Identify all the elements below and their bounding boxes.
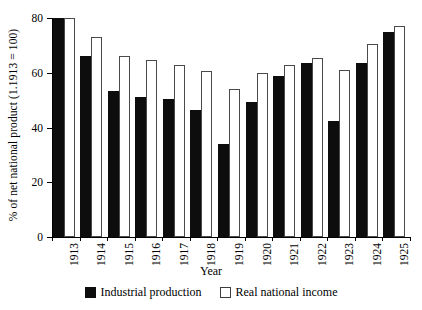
legend-item-label: Industrial production: [101, 285, 202, 300]
x-axis-tick-label: 1920: [261, 243, 273, 266]
x-axis-tick: [107, 237, 108, 241]
x-axis-tick-label: 1924: [371, 243, 383, 266]
bar-1921-real-national-income: [284, 65, 295, 237]
x-axis-tick: [410, 237, 411, 241]
y-axis-tick: 60: [47, 73, 52, 74]
bar-1915-real-national-income: [119, 56, 130, 237]
x-axis-tick: [272, 237, 273, 241]
bar-1920-real-national-income: [257, 73, 268, 237]
x-axis-tick-label: 1918: [205, 243, 217, 266]
y-axis-tick: 40: [47, 128, 52, 129]
bar-1919-industrial-production: [218, 144, 229, 237]
x-axis-tick: [327, 237, 328, 241]
bar-1923-real-national-income: [339, 70, 350, 237]
bar-1916-industrial-production: [135, 97, 146, 237]
y-axis-tick-label: 20: [32, 174, 44, 190]
legend-swatch-icon: [220, 287, 231, 298]
bar-1925-industrial-production: [383, 32, 394, 237]
x-axis-tick: [245, 237, 246, 241]
legend-item-industrial-production: Industrial production: [85, 285, 202, 300]
chart-screenshot: % of net national product (1.1913 = 100)…: [0, 0, 422, 310]
x-axis-tick: [162, 237, 163, 241]
bar-1924-industrial-production: [356, 63, 367, 237]
bar-1918-real-national-income: [201, 71, 212, 237]
bar-1914-real-national-income: [91, 37, 102, 237]
x-axis-tick-label: 1923: [343, 243, 355, 266]
x-axis-tick-label: 1925: [398, 243, 410, 266]
x-axis-tick-label: 1922: [316, 243, 328, 266]
x-axis-tick-label: 1913: [68, 243, 80, 266]
x-axis-tick-label: 1915: [123, 243, 135, 266]
x-axis-tick-label: 1919: [233, 243, 245, 266]
x-axis-tick: [217, 237, 218, 241]
chart-legend: Industrial production Real national inco…: [0, 285, 422, 300]
x-axis-tick-label: 1916: [150, 243, 162, 266]
legend-item-label: Real national income: [236, 285, 338, 300]
bar-1925-real-national-income: [394, 26, 405, 237]
bar-1920-industrial-production: [246, 102, 257, 238]
x-axis-title: Year: [0, 264, 422, 279]
y-axis-tick-label: 0: [37, 229, 43, 245]
x-axis-tick-label: 1921: [288, 243, 300, 266]
bar-1921-industrial-production: [273, 76, 284, 238]
bar-1913-real-national-income: [64, 18, 75, 237]
bar-1917-industrial-production: [163, 99, 174, 237]
bar-1915-industrial-production: [108, 91, 119, 237]
bar-1922-real-national-income: [312, 58, 323, 237]
bar-1914-industrial-production: [80, 56, 91, 237]
bar-1919-real-national-income: [229, 89, 240, 237]
x-axis-tick: [135, 237, 136, 241]
x-axis-tick-label: 1917: [178, 243, 190, 266]
y-axis-title-text: % of net national product (1.1913 = 100): [7, 29, 19, 222]
bar-1918-industrial-production: [190, 110, 201, 237]
x-axis-title-text: Year: [200, 264, 222, 278]
x-axis-tick: [355, 237, 356, 241]
bar-1922-industrial-production: [301, 63, 312, 237]
bar-1916-real-national-income: [146, 60, 157, 237]
bar-1923-industrial-production: [328, 121, 339, 237]
bar-1913-industrial-production: [53, 18, 64, 237]
x-axis-tick: [300, 237, 301, 241]
x-axis-tick: [52, 237, 53, 241]
plot-area: 0204060801913191419151916191719181919192…: [52, 18, 410, 237]
x-axis-tick: [190, 237, 191, 241]
bar-1917-real-national-income: [174, 65, 185, 237]
y-axis-tick: 80: [47, 18, 52, 19]
y-axis-tick-label: 60: [32, 65, 44, 81]
y-axis-tick-label: 80: [32, 10, 44, 26]
x-axis-line: [52, 237, 411, 238]
bar-1924-real-national-income: [367, 44, 378, 237]
legend-item-real-national-income: Real national income: [220, 285, 338, 300]
y-axis-title: % of net national product (1.1913 = 100): [0, 0, 26, 250]
legend-swatch-icon: [85, 287, 96, 298]
x-axis-tick: [80, 237, 81, 241]
x-axis-tick-label: 1914: [95, 243, 107, 266]
y-axis-tick: 20: [47, 182, 52, 183]
y-axis-tick-label: 40: [32, 120, 44, 136]
x-axis-tick: [382, 237, 383, 241]
